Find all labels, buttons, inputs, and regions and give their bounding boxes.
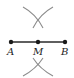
point-a bbox=[9, 40, 13, 44]
label-b: B bbox=[60, 46, 68, 57]
label-m: M bbox=[32, 46, 44, 57]
point-b bbox=[63, 40, 67, 44]
upper-arc-intersection bbox=[23, 7, 53, 28]
bisector-diagram: A M B bbox=[0, 0, 74, 78]
label-a: A bbox=[6, 46, 14, 57]
point-m bbox=[36, 40, 40, 44]
lower-arc-intersection bbox=[23, 58, 53, 76]
